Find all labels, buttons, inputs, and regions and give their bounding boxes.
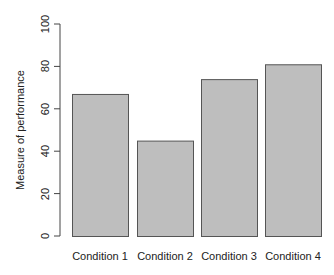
y-tick-label: 100 xyxy=(39,15,51,33)
bar-4 xyxy=(266,65,322,237)
y-tick-label: 40 xyxy=(39,145,51,157)
x-tick-label: Condition 4 xyxy=(265,250,321,262)
x-tick-label: Condition 3 xyxy=(201,250,257,262)
bar-chart: Measure of performance 020406080100 Cond… xyxy=(0,0,334,275)
y-tick-label: 80 xyxy=(39,60,51,72)
bar-2 xyxy=(138,141,194,236)
y-tick-label: 0 xyxy=(39,233,51,239)
x-tick-label: Condition 1 xyxy=(72,250,128,262)
y-axis-label: Measure of performance xyxy=(14,70,26,190)
y-tick-label: 60 xyxy=(39,103,51,115)
bar-3 xyxy=(202,80,258,237)
x-tick-label: Condition 2 xyxy=(137,250,193,262)
bar-1 xyxy=(73,94,129,236)
y-tick-label: 20 xyxy=(39,187,51,199)
